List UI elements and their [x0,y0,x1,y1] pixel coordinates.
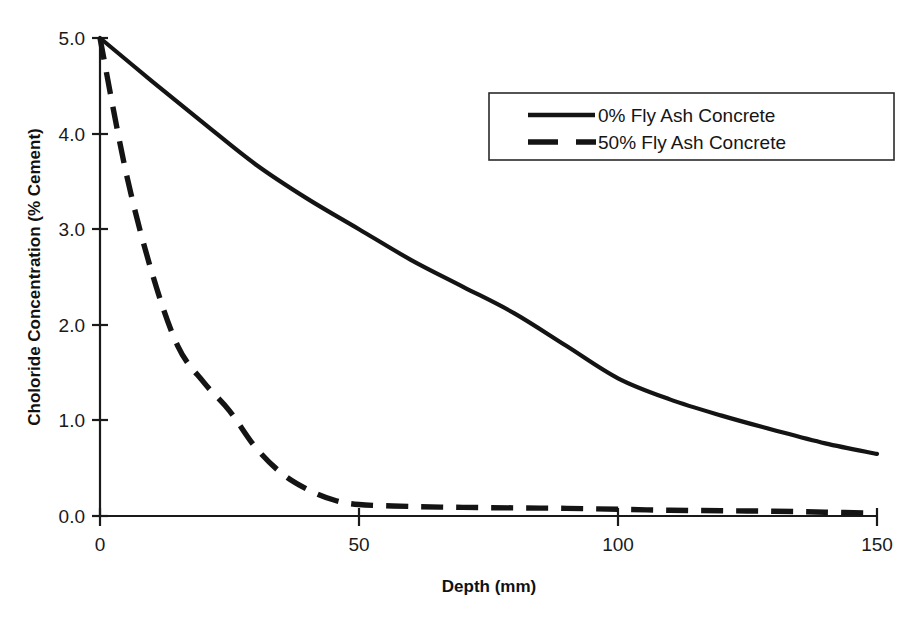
x-tick-label-3: 150 [861,534,893,555]
legend-label-1: 50% Fly Ash Concrete [598,132,786,153]
y-tick-label-3: 3.0 [59,219,85,240]
x-tick-label-2: 100 [602,534,634,555]
y-axis-title: Choloride Concentration (% Cement) [25,128,44,426]
y-tick-label-0: 0.0 [59,506,85,527]
y-tick-label-1: 1.0 [59,410,85,431]
x-tick-label-1: 50 [348,534,369,555]
y-tick-label-5: 5.0 [59,28,85,49]
legend: 0% Fly Ash Concrete 50% Fly Ash Concrete [489,93,894,160]
legend-label-0: 0% Fly Ash Concrete [598,105,775,126]
x-axis-title: Depth (mm) [442,577,536,596]
x-tick-label-0: 0 [95,534,106,555]
y-tick-label-4: 4.0 [59,124,85,145]
chloride-concentration-line-chart: 0.0 1.0 2.0 3.0 4.0 5.0 0 50 100 150 Dep… [0,0,920,625]
chart-page: 0.0 1.0 2.0 3.0 4.0 5.0 0 50 100 150 Dep… [0,0,920,625]
y-tick-label-2: 2.0 [59,315,85,336]
